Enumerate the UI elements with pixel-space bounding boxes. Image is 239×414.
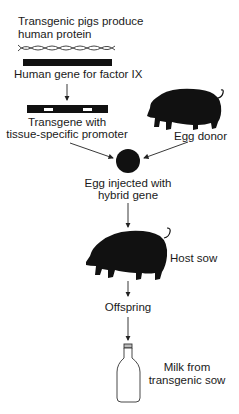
title-line-1: Transgenic pigs produce — [18, 15, 144, 28]
gene-label: Human gene for factor IX — [14, 68, 142, 81]
arrow-donor-to-egg — [144, 142, 188, 158]
host-sow-pig-icon — [86, 228, 170, 280]
arrow-transgene-to-egg — [70, 143, 113, 158]
transgene-bar — [27, 105, 108, 113]
dna-helix-icon — [18, 45, 115, 51]
diagram-canvas — [0, 0, 239, 414]
title-line-2: human protein — [18, 28, 92, 41]
egg-donor-label: Egg donor — [174, 130, 227, 143]
transgene-label-line-2: tissue-specific promoter — [6, 128, 128, 141]
milk-label-line-1: Milk from — [142, 361, 232, 374]
gene-bar — [23, 59, 112, 66]
milk-bottle-icon — [117, 344, 140, 402]
host-sow-label: Host sow — [170, 252, 217, 265]
egg-label-line-2: hybrid gene — [73, 189, 183, 202]
egg-donor-pig-icon — [147, 89, 223, 130]
milk-label-line-2: transgenic sow — [142, 374, 232, 387]
egg-cell-icon — [116, 149, 140, 173]
offspring-label: Offspring — [88, 301, 168, 314]
